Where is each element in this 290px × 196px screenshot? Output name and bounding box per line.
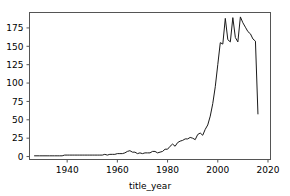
y-tick-label: 25 xyxy=(12,133,23,143)
y-tick-label: 50 xyxy=(12,115,24,125)
y-tick-label: 150 xyxy=(6,42,23,52)
x-axis-title: title_year xyxy=(129,181,171,191)
y-tick-label: 175 xyxy=(6,23,23,33)
y-tick-label: 125 xyxy=(6,60,23,70)
x-tick-label: 2020 xyxy=(257,165,280,175)
y-tick-label: 0 xyxy=(18,152,24,162)
matplotlib-figure: 19401960198020002020 0255075100125150175… xyxy=(0,0,290,196)
y-tick-label: 75 xyxy=(12,97,23,107)
x-tick-label: 1940 xyxy=(56,165,79,175)
y-tick-label: 100 xyxy=(6,78,23,88)
x-tick-label: 1960 xyxy=(106,165,129,175)
x-tick-label: 2000 xyxy=(206,165,229,175)
line-chart: 19401960198020002020 0255075100125150175… xyxy=(0,0,290,196)
x-tick-label: 1980 xyxy=(156,165,179,175)
